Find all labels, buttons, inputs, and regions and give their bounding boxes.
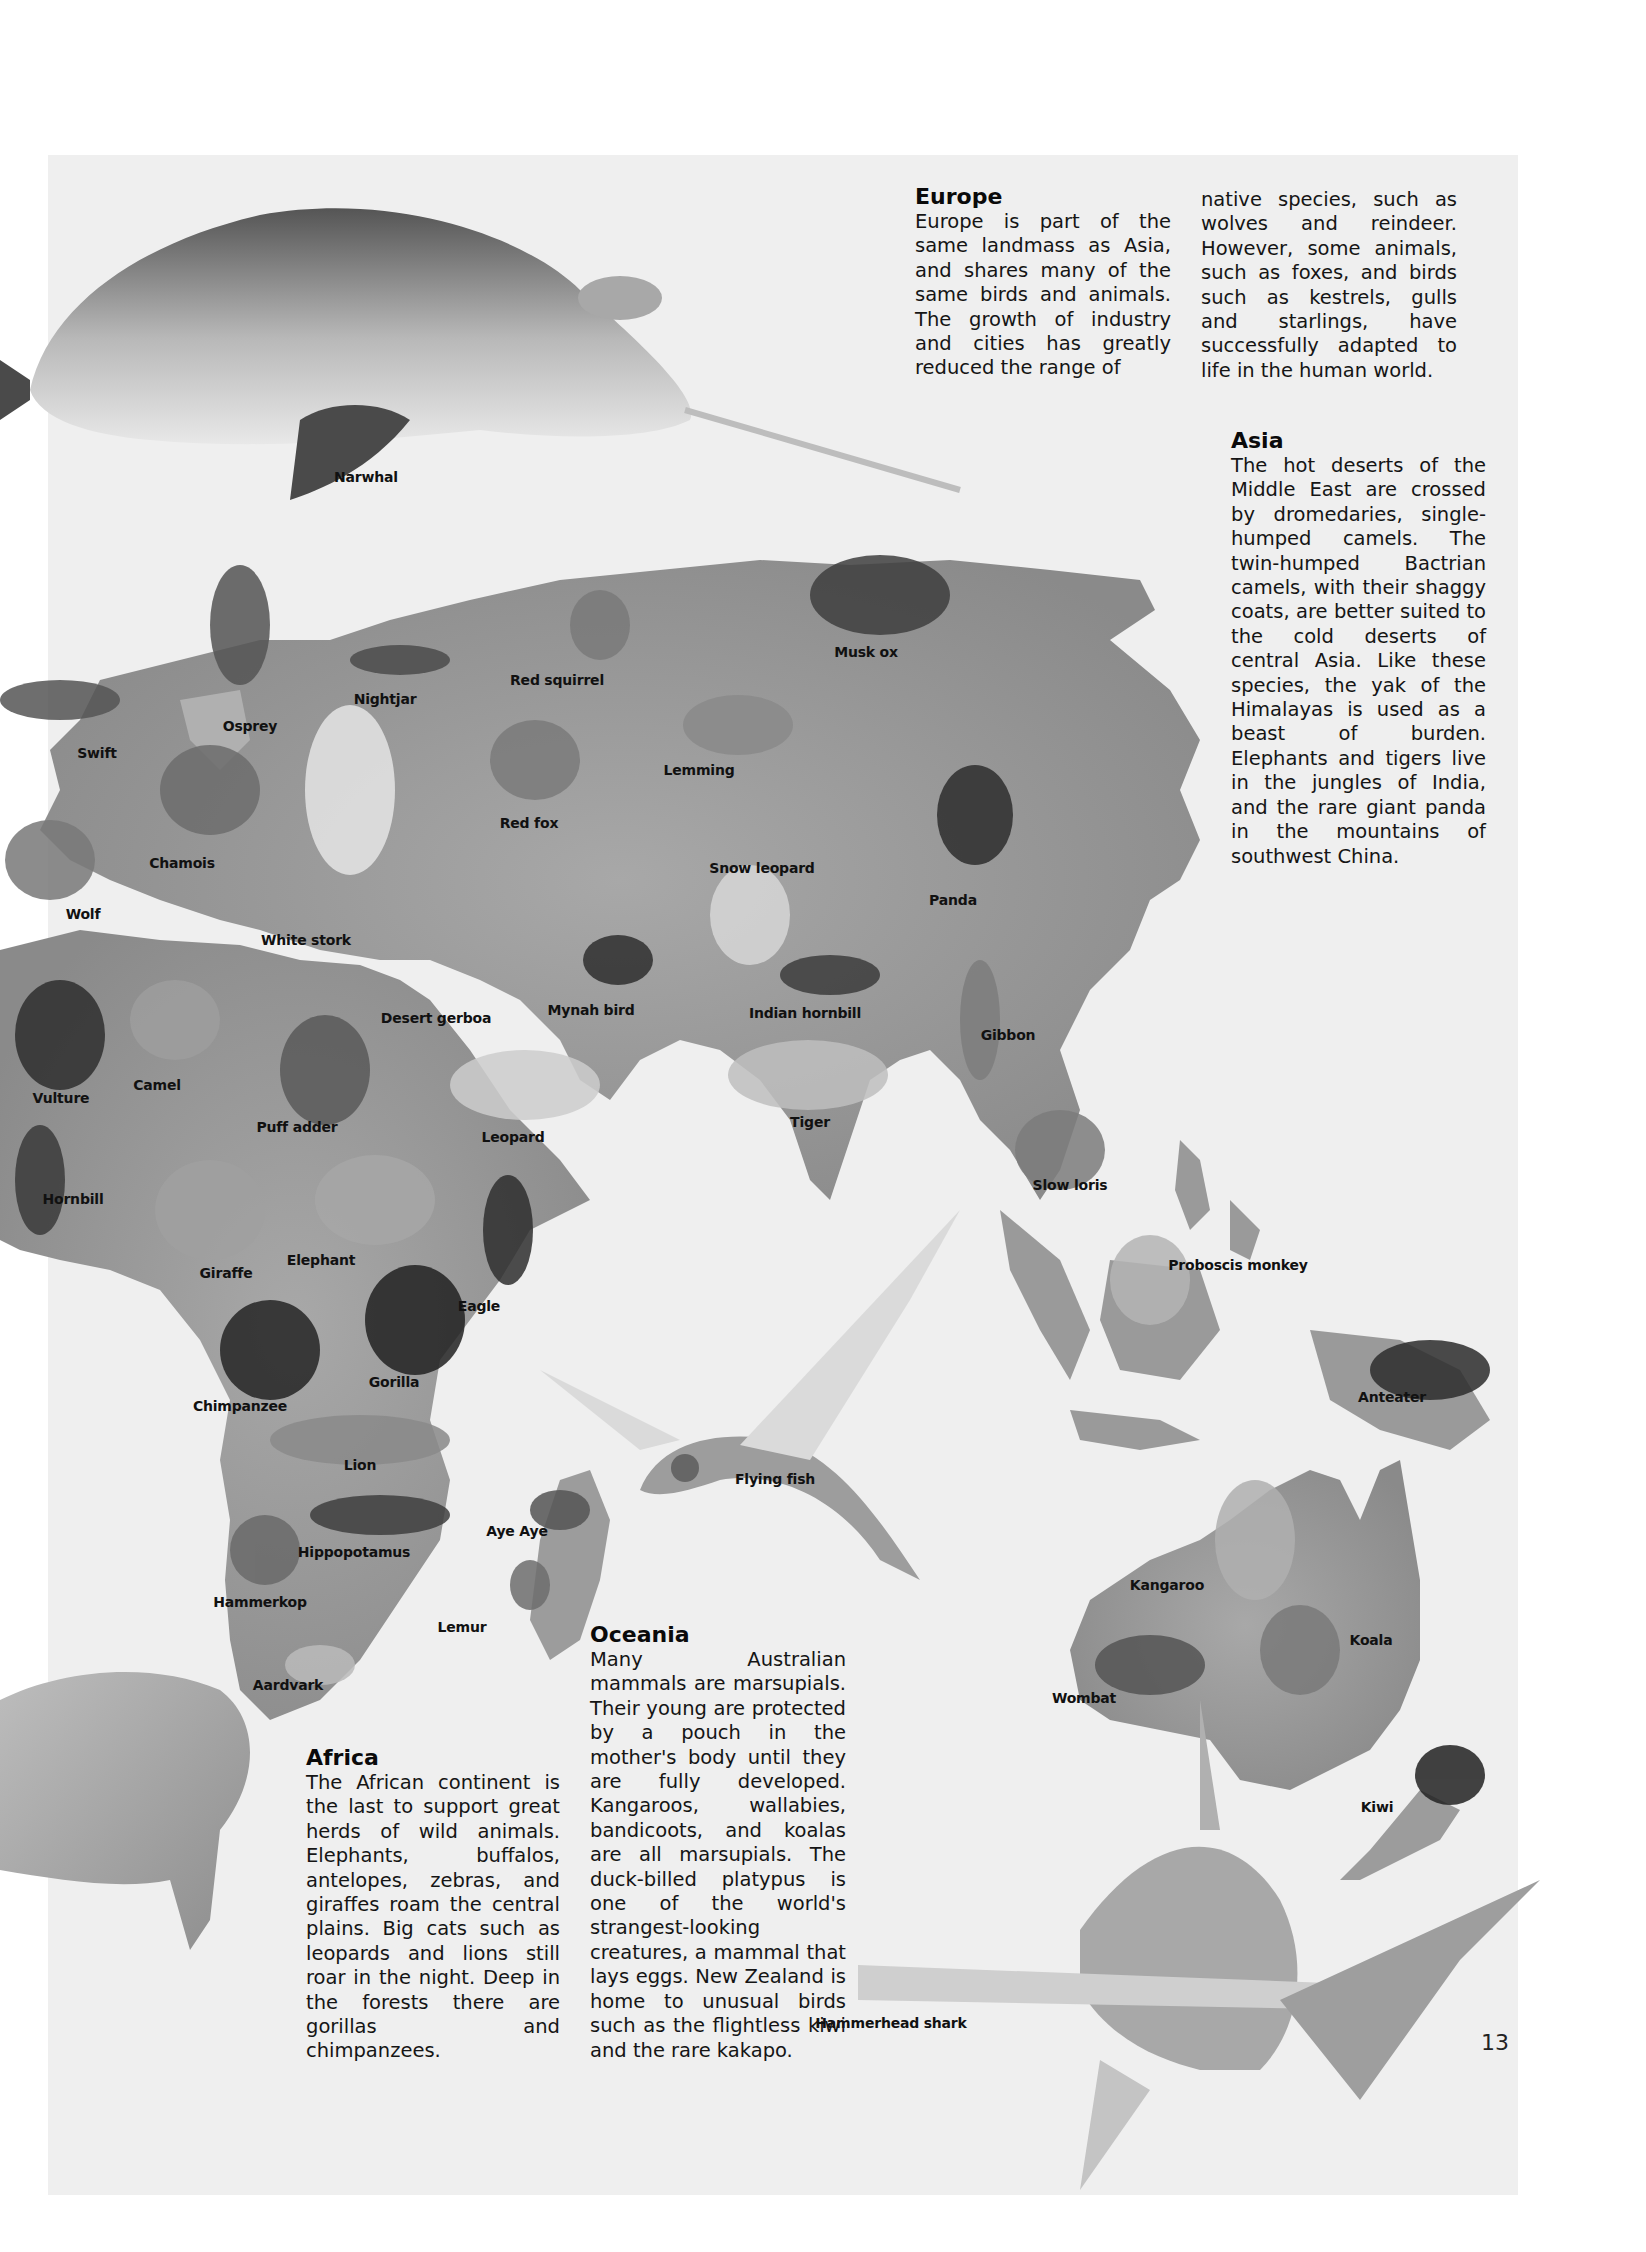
animal-label-aye-aye: Aye Aye — [486, 1523, 547, 1539]
animal-label-kiwi: Kiwi — [1361, 1799, 1394, 1815]
oceania-body: Many Australian mammals are marsupials. … — [590, 1648, 846, 2063]
animal-label-nightjar: Nightjar — [354, 691, 417, 707]
animal-label-white-stork: White stork — [261, 932, 351, 948]
animal-label-leopard: Leopard — [481, 1129, 544, 1145]
animal-label-chamois: Chamois — [149, 855, 215, 871]
oceania-section: Oceania Many Australian mammals are mars… — [590, 1622, 846, 2063]
europe-body-col1: Europe is part of the same landmass as A… — [915, 210, 1171, 381]
animal-label-tiger: Tiger — [790, 1114, 830, 1130]
animal-label-giraffe: Giraffe — [200, 1265, 253, 1281]
animal-label-aardvark: Aardvark — [253, 1677, 323, 1693]
animal-label-desert-gerboa: Desert gerboa — [381, 1010, 491, 1026]
page-number: 13 — [1481, 2030, 1509, 2055]
animal-label-osprey: Osprey — [223, 718, 278, 734]
animal-label-snow-leopard: Snow leopard — [709, 860, 814, 876]
animal-label-gibbon: Gibbon — [981, 1027, 1036, 1043]
animal-label-anteater: Anteater — [1358, 1389, 1426, 1405]
animal-label-musk-ox: Musk ox — [834, 644, 898, 660]
animal-label-slow-loris: Slow loris — [1033, 1177, 1108, 1193]
animal-label-wombat: Wombat — [1052, 1690, 1116, 1706]
animal-label-vulture: Vulture — [33, 1090, 90, 1106]
africa-section: Africa The African continent is the last… — [306, 1745, 560, 2064]
animal-label-flying-fish: Flying fish — [735, 1471, 815, 1487]
africa-body: The African continent is the last to sup… — [306, 1771, 560, 2064]
animal-label-elephant: Elephant — [287, 1252, 355, 1268]
asia-body: The hot deserts of the Middle East are c… — [1231, 454, 1486, 869]
animal-label-hornbill: Hornbill — [42, 1191, 103, 1207]
animal-label-panda: Panda — [929, 892, 977, 908]
asia-section: Asia The hot deserts of the Middle East … — [1231, 428, 1486, 869]
animal-label-proboscis-monkey: Proboscis monkey — [1168, 1257, 1308, 1273]
animal-label-puff-adder: Puff adder — [256, 1119, 337, 1135]
animal-label-koala: Koala — [1350, 1632, 1393, 1648]
africa-heading: Africa — [306, 1745, 560, 1771]
animal-label-hammerkop: Hammerkop — [213, 1594, 307, 1610]
animal-label-chimpanzee: Chimpanzee — [193, 1398, 287, 1414]
animal-label-kangaroo: Kangaroo — [1130, 1577, 1204, 1593]
europe-heading: Europe — [915, 184, 1171, 210]
animal-label-lion: Lion — [344, 1457, 377, 1473]
oceania-heading: Oceania — [590, 1622, 846, 1648]
animal-label-lemur: Lemur — [438, 1619, 487, 1635]
animal-label-red-squirrel: Red squirrel — [510, 672, 604, 688]
animal-label-red-fox: Red fox — [500, 815, 559, 831]
animal-label-mynah-bird: Mynah bird — [547, 1002, 634, 1018]
animal-label-indian-hornbill: Indian hornbill — [749, 1005, 861, 1021]
europe-body-col2: native species, such as wolves and reind… — [1201, 188, 1457, 383]
animal-label-eagle: Eagle — [458, 1298, 500, 1314]
animal-label-swift: Swift — [77, 745, 117, 761]
animal-label-camel: Camel — [133, 1077, 181, 1093]
animal-label-narwhal: Narwhal — [334, 469, 398, 485]
animal-label-hippopotamus: Hippopotamus — [298, 1544, 410, 1560]
animal-label-lemming: Lemming — [664, 762, 735, 778]
asia-heading: Asia — [1231, 428, 1486, 454]
narwhal-illustration — [0, 208, 960, 500]
animal-label-gorilla: Gorilla — [369, 1374, 419, 1390]
animal-label-wolf: Wolf — [66, 906, 101, 922]
dolphin-illustration — [0, 1672, 250, 1950]
